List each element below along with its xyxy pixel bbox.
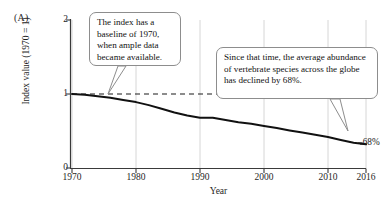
- callout-2-pointer: [330, 99, 348, 131]
- callout-1-pointer: [108, 66, 126, 94]
- end-change-label: –68%: [358, 137, 380, 147]
- callout-baseline: The index has a baseline of 1970, when a…: [89, 12, 181, 66]
- plot-area: [0, 0, 389, 205]
- callout-decline: Since that time, the average abundance o…: [216, 47, 378, 99]
- index-data-line: [72, 94, 366, 144]
- chart-figure: (A) Index value (1970 = 1) Year 2 1 0 19…: [0, 0, 389, 205]
